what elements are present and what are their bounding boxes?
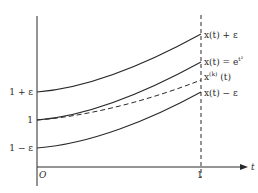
upper-curve-label: x(t) + ε — [204, 30, 238, 40]
exact-curve-label: x(t) = et² — [204, 55, 244, 67]
origin-label: O — [39, 170, 47, 180]
exact-solution-curve — [37, 62, 201, 120]
approx-curve-label: x(k) (t) — [204, 70, 231, 82]
lower-curve-label: x(t) − ε — [204, 88, 238, 98]
x-axis-arrow-icon — [240, 164, 248, 170]
x-tick-label-one: 1 — [197, 170, 203, 180]
tube-diagram: 1 + ε 1 1 − ε O 1 t x(t) + ε x(t) = et² … — [0, 0, 258, 193]
y-label-upper: 1 + ε — [9, 87, 33, 97]
y-label-lower: 1 − ε — [9, 143, 33, 153]
x-axis-label: t — [251, 162, 255, 172]
y-label-middle: 1 — [27, 115, 33, 125]
upper-bound-curve — [37, 34, 201, 92]
